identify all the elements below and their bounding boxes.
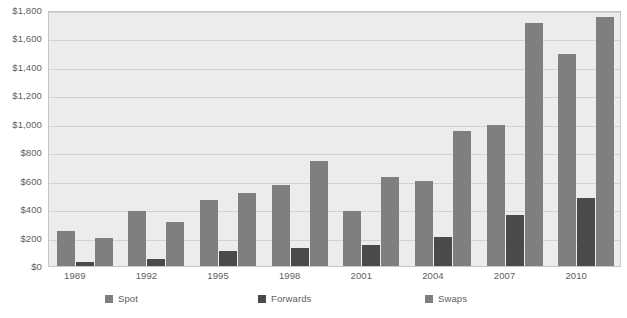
bar-forwards-2010: [577, 198, 595, 266]
bar-forwards-1992: [147, 259, 165, 266]
x-tick-label: 1992: [136, 270, 158, 281]
bar-swaps-2004: [453, 131, 471, 266]
bars-layer: [49, 12, 620, 266]
bar-group-1989: [49, 12, 121, 266]
x-tick-label: 1995: [207, 270, 229, 281]
chart-legend: SpotForwardsSwaps: [0, 293, 627, 309]
legend-item-forwards[interactable]: Forwards: [258, 293, 311, 304]
bar-spot-2010: [558, 54, 576, 266]
bar-spot-1998: [272, 185, 290, 266]
legend-item-spot[interactable]: Spot: [105, 293, 138, 304]
bar-spot-2007: [487, 125, 505, 267]
x-tick-label: 2001: [351, 270, 373, 281]
y-tick-label: $1,400: [12, 63, 42, 73]
bar-forwards-1989: [76, 262, 94, 266]
bar-chart: $0$200$400$600$800$1,000$1,200$1,400$1,6…: [0, 0, 627, 318]
legend-swatch-icon: [105, 295, 113, 303]
bar-swaps-2001: [381, 177, 399, 266]
bar-swaps-1992: [166, 222, 184, 266]
bar-group-1992: [121, 12, 193, 266]
bar-forwards-2001: [362, 245, 380, 266]
bar-group-2010: [550, 12, 622, 266]
y-tick-label: $800: [20, 148, 42, 158]
y-tick-label: $1,600: [12, 34, 42, 44]
legend-item-swaps[interactable]: Swaps: [425, 293, 467, 304]
bar-forwards-1998: [291, 248, 309, 266]
legend-swatch-icon: [425, 295, 433, 303]
bar-swaps-2007: [525, 23, 543, 266]
bar-group-1995: [192, 12, 264, 266]
x-axis: 19891992199519982001200420072010: [48, 270, 621, 286]
bar-spot-1989: [57, 231, 75, 266]
legend-label: Forwards: [271, 293, 311, 304]
bar-spot-1992: [128, 211, 146, 266]
y-tick-label: $0: [31, 262, 42, 272]
y-tick-label: $1,000: [12, 120, 42, 130]
bar-group-2004: [407, 12, 479, 266]
y-tick-label: $200: [20, 234, 42, 244]
x-tick-label: 2007: [494, 270, 516, 281]
y-tick-label: $600: [20, 177, 42, 187]
y-tick-label: $400: [20, 205, 42, 215]
y-tick-label: $1,800: [12, 6, 42, 16]
legend-label: Spot: [118, 293, 138, 304]
bar-forwards-1995: [219, 251, 237, 266]
bar-forwards-2007: [506, 215, 524, 266]
bar-swaps-1998: [310, 161, 328, 266]
bar-swaps-1995: [238, 193, 256, 266]
x-tick-label: 1998: [279, 270, 301, 281]
bar-group-2001: [336, 12, 408, 266]
y-tick-label: $1,200: [12, 91, 42, 101]
bar-group-2007: [479, 12, 551, 266]
bar-spot-2001: [343, 211, 361, 266]
bar-forwards-2004: [434, 237, 452, 266]
legend-swatch-icon: [258, 295, 266, 303]
bar-spot-1995: [200, 200, 218, 266]
x-tick-label: 1989: [64, 270, 86, 281]
legend-label: Swaps: [438, 293, 467, 304]
plot-area: [48, 11, 621, 267]
bar-spot-2004: [415, 181, 433, 266]
bar-group-1998: [264, 12, 336, 266]
bar-swaps-2010: [596, 17, 614, 266]
x-tick-label: 2010: [565, 270, 587, 281]
x-tick-label: 2004: [422, 270, 444, 281]
y-axis: $0$200$400$600$800$1,000$1,200$1,400$1,6…: [0, 0, 46, 270]
bar-swaps-1989: [95, 238, 113, 266]
